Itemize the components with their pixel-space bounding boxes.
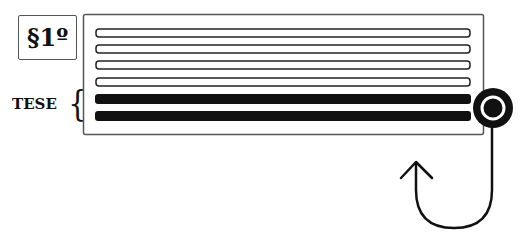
highlighted-line xyxy=(95,111,471,121)
document-diagram xyxy=(0,0,527,239)
text-line xyxy=(96,61,470,69)
u-turn-arrow-icon xyxy=(401,128,492,228)
target-marker-icon xyxy=(473,88,513,128)
highlighted-line xyxy=(95,94,471,104)
text-line xyxy=(96,45,470,53)
diagram-canvas: §1º TESE { xyxy=(0,0,527,239)
text-line xyxy=(96,29,470,37)
text-line xyxy=(96,78,470,86)
